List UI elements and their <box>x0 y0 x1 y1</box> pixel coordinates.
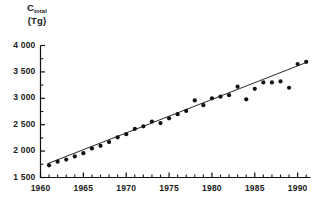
x-axis-tick-labels: 1960196519701975198019851990 <box>0 0 320 205</box>
chart-figure: Ctotal (Tg) 1 5002 0002 5003 0003 5004 0… <box>0 0 320 205</box>
x-tick-label: 1960 <box>21 183 61 193</box>
x-tick-label: 1975 <box>149 183 189 193</box>
x-tick-label: 1970 <box>106 183 146 193</box>
x-tick-label: 1990 <box>278 183 318 193</box>
x-tick-label: 1965 <box>63 183 103 193</box>
x-tick-label: 1980 <box>192 183 232 193</box>
x-tick-label: 1985 <box>235 183 275 193</box>
